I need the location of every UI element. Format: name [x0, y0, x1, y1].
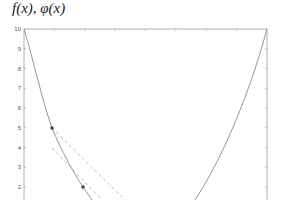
- function-curve: [24, 29, 267, 200]
- marker-point-y2: [81, 185, 85, 189]
- dashed-line-1: [52, 128, 125, 200]
- marker-point-y5: [50, 126, 54, 130]
- svg-text:2: 2: [18, 184, 22, 190]
- svg-text:6: 6: [18, 105, 22, 111]
- y-tick-labels: 10 9 8 7 6 5 4 3 2: [14, 26, 21, 190]
- y-ticks: [24, 49, 267, 187]
- svg-text:4: 4: [18, 145, 22, 151]
- dashed-line-2: [52, 148, 102, 200]
- chart-plot: 10 9 8 7 6 5 4 3 2: [0, 0, 290, 200]
- axes: [24, 29, 267, 200]
- svg-text:10: 10: [14, 26, 21, 32]
- svg-text:8: 8: [18, 66, 22, 72]
- svg-text:5: 5: [18, 125, 22, 131]
- svg-text:9: 9: [18, 46, 22, 52]
- svg-text:7: 7: [18, 85, 22, 91]
- svg-text:3: 3: [18, 164, 22, 170]
